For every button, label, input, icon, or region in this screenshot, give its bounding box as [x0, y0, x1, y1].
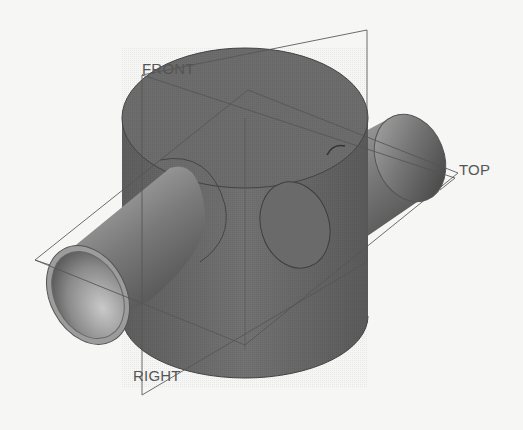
front-plane-label[interactable]: FRONT — [142, 60, 195, 77]
model-viewport[interactable]: FRONT TOP RIGHT — [0, 0, 523, 430]
model-graphic — [0, 0, 523, 430]
right-plane-label[interactable]: RIGHT — [133, 367, 181, 384]
top-plane-label[interactable]: TOP — [459, 161, 490, 178]
